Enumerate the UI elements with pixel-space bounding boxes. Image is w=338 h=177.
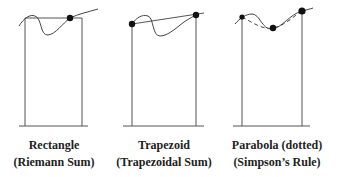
caption-subtitle: (Riemann Sum): [4, 154, 104, 171]
function-curve: [132, 15, 196, 36]
function-curve: [19, 9, 98, 35]
rectangle-panel: [19, 9, 98, 126]
rectangle-shape: [25, 18, 82, 126]
caption-subtitle: (Trapezoidal Sum): [113, 154, 215, 171]
parabola-caption: Parabola (dotted) (Simpson’s Rule): [226, 137, 328, 171]
trapezoid-caption: Trapezoid (Trapezoidal Sum): [113, 137, 215, 171]
caption-title: Rectangle: [4, 137, 104, 154]
trapezoid-panel: [123, 12, 204, 126]
caption-title: Parabola (dotted): [226, 137, 328, 154]
right-point-dot: [298, 7, 305, 14]
left-point-dot: [239, 14, 244, 19]
caption-title: Trapezoid: [113, 137, 215, 154]
caption-subtitle: (Simpson’s Rule): [226, 154, 328, 171]
rectangle-caption: Rectangle (Riemann Sum): [4, 137, 104, 171]
parabola-panel: [233, 7, 313, 126]
right-endpoint-dot: [193, 12, 199, 18]
sample-point-dot: [67, 15, 73, 21]
midpoint-dot: [270, 25, 276, 31]
left-endpoint-dot: [129, 21, 135, 27]
